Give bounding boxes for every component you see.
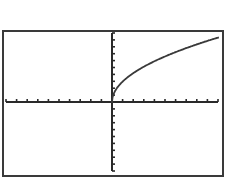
graph-screen: [0, 0, 234, 189]
function-graph: [0, 0, 234, 189]
